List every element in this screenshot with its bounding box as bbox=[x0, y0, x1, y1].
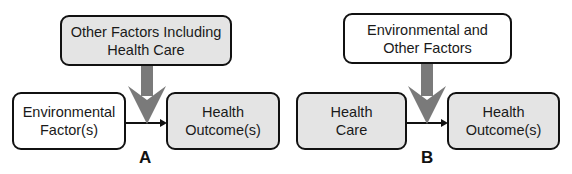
panel-label-a: A bbox=[139, 148, 151, 168]
panel-b-arrows bbox=[407, 64, 448, 127]
box-label: Environmental Factor(s) bbox=[23, 103, 116, 139]
box-health-care: Health Care bbox=[296, 92, 407, 150]
box-label: Environmental and Other Factors bbox=[367, 21, 488, 57]
box-label: Other Factors Including Health Care bbox=[71, 23, 222, 59]
box-environmental-and-other-factors: Environmental and Other Factors bbox=[343, 13, 512, 64]
panel-a-arrows bbox=[126, 66, 167, 127]
box-health-outcomes-b: Health Outcome(s) bbox=[447, 92, 560, 150]
box-health-outcomes-a: Health Outcome(s) bbox=[166, 92, 280, 150]
box-label: Health Outcome(s) bbox=[185, 103, 261, 139]
box-environmental-factors: Environmental Factor(s) bbox=[12, 92, 126, 150]
box-other-factors-including-health-care: Other Factors Including Health Care bbox=[60, 15, 232, 66]
box-label: Health Outcome(s) bbox=[466, 103, 542, 139]
modifier-arrow-shaft-a bbox=[141, 66, 153, 96]
modifier-arrow-shaft-b bbox=[421, 64, 433, 96]
panel-label-b: B bbox=[421, 148, 433, 168]
box-label: Health Care bbox=[331, 103, 373, 139]
